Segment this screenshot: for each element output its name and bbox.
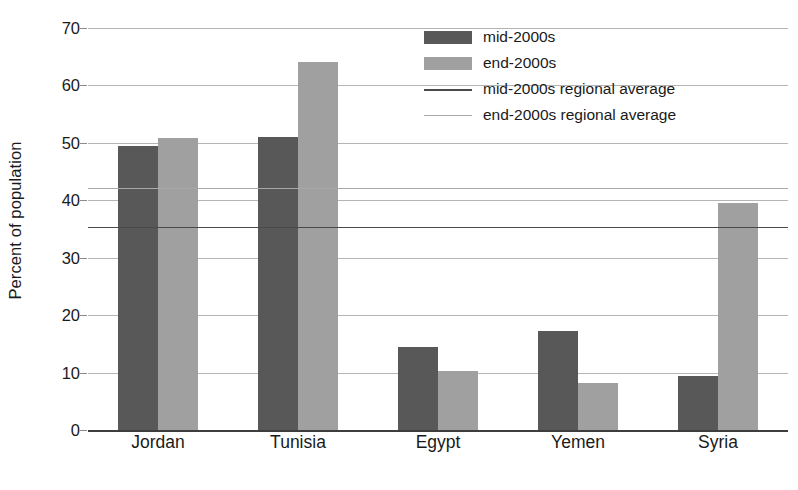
y-axis-title-text: Percent of population (6, 141, 25, 299)
bar-chart: Percent of population 010203040506070 Jo… (0, 0, 798, 490)
y-axis-tick-label: 0 (34, 422, 80, 439)
bar (158, 138, 198, 430)
y-axis-tick-label: 10 (34, 364, 80, 381)
bar (678, 376, 718, 430)
legend-swatch-icon (424, 31, 472, 44)
y-axis-tick-mark (80, 28, 87, 29)
y-axis-tick-label: 70 (34, 20, 80, 37)
legend-item-label: mid-2000s (483, 29, 555, 45)
bar (438, 371, 478, 430)
x-axis-tick-label: Tunisia (270, 434, 326, 452)
bar (298, 62, 338, 430)
legend-item-label: mid-2000s regional average (483, 81, 675, 97)
x-axis-tick-label: Syria (698, 434, 738, 452)
legend-item: end-2000s regional average (424, 102, 754, 128)
legend-item-label: end-2000s (483, 55, 556, 71)
bar (538, 331, 578, 430)
bar (718, 203, 758, 430)
reference-line (88, 188, 788, 189)
y-axis-tick-mark (80, 430, 87, 431)
legend-item: mid-2000s regional average (424, 76, 754, 102)
y-axis-tick-mark (80, 200, 87, 201)
y-axis-tick-label: 60 (34, 77, 80, 94)
x-axis-tick-label: Jordan (131, 434, 185, 452)
bar (578, 383, 618, 430)
legend-swatch-icon (424, 57, 472, 70)
chart-legend: mid-2000send-2000smid-2000s regional ave… (424, 24, 754, 128)
bar (398, 347, 438, 430)
y-axis-tick-label: 30 (34, 249, 80, 266)
legend-item: end-2000s (424, 50, 754, 76)
y-axis-tick-labels: 010203040506070 (30, 28, 80, 430)
y-axis-tick-mark (80, 85, 87, 86)
y-axis-tick-mark (80, 258, 87, 259)
x-axis-tick-labels: JordanTunisiaEgyptYemenSyria (88, 434, 788, 468)
legend-item-label: end-2000s regional average (483, 107, 676, 123)
y-axis-title: Percent of population (2, 0, 28, 440)
y-axis-tick-mark (80, 143, 87, 144)
legend-line-icon (424, 109, 472, 122)
x-axis-tick-label: Egypt (416, 434, 461, 452)
y-axis-tick-mark (80, 315, 87, 316)
legend-item: mid-2000s (424, 24, 754, 50)
y-axis-tick-label: 20 (34, 307, 80, 324)
x-axis-tick-label: Yemen (551, 434, 605, 452)
y-axis-tick-label: 40 (34, 192, 80, 209)
reference-line (88, 227, 788, 229)
legend-line-icon (424, 83, 472, 96)
y-axis-tick-label: 50 (34, 135, 80, 152)
y-axis-tick-mark (80, 373, 87, 374)
bar (258, 137, 298, 430)
